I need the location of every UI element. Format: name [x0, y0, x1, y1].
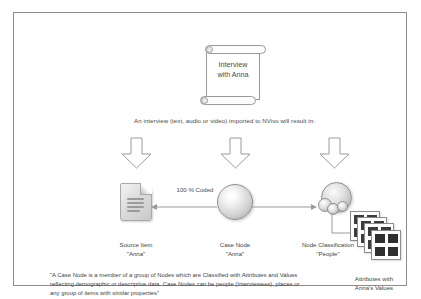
label-node-classification-value: "People" [280, 250, 376, 259]
scroll-bottom-knob [201, 97, 208, 104]
node-classification-icon [317, 181, 353, 217]
label-source-item-value: "Anna" [90, 250, 182, 259]
diagram-frame: Interview with Anna An interview (text, … [13, 12, 407, 286]
label-case-node-value: "Anna" [189, 250, 281, 259]
definition-quote: "A Case Node is a member of a group of N… [50, 271, 300, 299]
scroll-text-line1: Interview [207, 60, 259, 70]
lead-caption: An interview (text, audio or video) impo… [14, 117, 421, 124]
down-arrow-center [219, 137, 252, 169]
label-node-classification: Node Classification "People" [280, 241, 376, 258]
scroll-icon: Interview with Anna [200, 44, 266, 106]
document-line [127, 206, 144, 208]
scroll-top-knob [206, 46, 213, 53]
scroll-top-roll [205, 45, 266, 54]
down-arrow-right [318, 137, 351, 169]
sphere-highlight [225, 190, 239, 200]
diagram-canvas: Interview with Anna An interview (text, … [0, 0, 421, 299]
label-case-node-title: Case Node [189, 241, 281, 250]
document-line [127, 198, 144, 200]
coded-percent-label: 100 % Coded [165, 186, 225, 193]
attribute-grid-stack-icon [350, 211, 414, 267]
down-arrow-left [120, 137, 153, 169]
label-attributes-line1: Attributes with [332, 275, 416, 284]
connector-case-to-source [150, 198, 218, 208]
scroll-bottom-roll [200, 96, 256, 105]
document-icon [120, 183, 152, 221]
classification-sub-sphere [337, 201, 348, 212]
document-line [127, 202, 144, 204]
connector-case-to-classification [252, 198, 318, 208]
scroll-text: Interview with Anna [207, 60, 259, 79]
label-node-classification-title: Node Classification [280, 241, 376, 250]
document-fold [140, 183, 152, 195]
label-attributes-line2: Anna's Values [332, 284, 416, 293]
label-source-item-title: Source Item [90, 241, 182, 250]
label-source-item: Source Item "Anna" [90, 241, 182, 258]
label-attributes: Attributes with Anna's Values [332, 275, 416, 292]
scroll-text-line2: with Anna [207, 70, 259, 80]
label-case-node: Case Node "Anna" [189, 241, 281, 258]
document-line [127, 210, 140, 212]
